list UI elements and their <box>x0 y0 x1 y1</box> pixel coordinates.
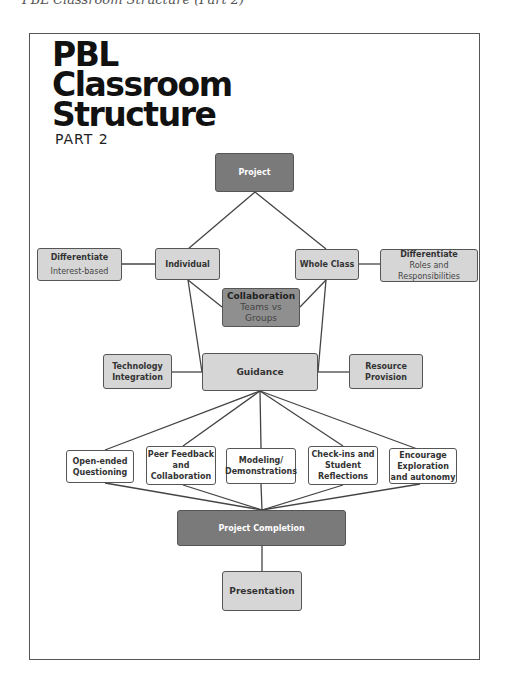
node-label: Peer Feedback <box>148 449 214 460</box>
node-peer-feedback: Peer Feedback and Collaboration <box>146 446 216 485</box>
node-individual: Individual <box>155 248 220 280</box>
node-modeling: Modeling/ Demonstrations <box>226 448 296 484</box>
node-differentiate-roles: Differentiate Roles and Responsibilities <box>380 249 478 282</box>
node-differentiate-interest: Differentiate Interest-based <box>37 248 122 281</box>
node-sub: Interest-based <box>51 266 109 277</box>
node-label: Questioning <box>73 467 128 478</box>
node-sub: Roles and <box>410 260 449 271</box>
node-presentation: Presentation <box>222 571 302 611</box>
node-label: Check-ins and <box>311 449 374 460</box>
node-collaboration: Collaboration Teams vs Groups <box>222 288 300 327</box>
node-sub: Groups <box>245 313 277 324</box>
node-sub: Responsibilities <box>398 271 460 282</box>
node-label: Resource <box>365 361 407 372</box>
node-label: Project <box>238 167 270 178</box>
node-title: Differentiate <box>51 252 109 263</box>
node-open-ended-questioning: Open-ended Questioning <box>66 450 134 483</box>
node-label: Exploration <box>397 461 449 472</box>
node-label: Encourage <box>399 450 447 461</box>
node-whole-class: Whole Class <box>295 249 359 280</box>
node-project-completion: Project Completion <box>177 510 346 546</box>
node-title: Collaboration <box>227 291 295 302</box>
node-label: Project Completion <box>218 523 304 534</box>
node-encourage-exploration: Encourage Exploration and autonomy <box>389 448 457 484</box>
node-label: Demonstrations <box>225 466 297 477</box>
node-project: Project <box>215 153 294 192</box>
node-resource-provision: Resource Provision <box>349 354 423 389</box>
node-label: Whole Class <box>300 259 355 270</box>
node-label: and <box>173 460 190 471</box>
node-title: Differentiate <box>400 249 458 260</box>
node-label: Provision <box>365 372 407 383</box>
node-label: Modeling/ <box>239 455 283 466</box>
node-label: Guidance <box>236 367 283 378</box>
node-label: Student <box>325 460 361 471</box>
node-label: Presentation <box>229 586 294 597</box>
node-label: Individual <box>165 259 210 270</box>
node-label: Technology <box>112 361 163 372</box>
node-label: Open-ended <box>73 456 128 467</box>
node-technology-integration: Technology Integration <box>103 354 172 389</box>
node-label: Collaboration <box>151 471 212 482</box>
node-label: Reflections <box>318 471 368 482</box>
node-sub: Teams vs <box>240 302 281 313</box>
node-label: Integration <box>112 372 163 383</box>
node-guidance: Guidance <box>202 353 318 391</box>
node-label: and autonomy <box>391 472 456 483</box>
node-check-ins: Check-ins and Student Reflections <box>308 446 378 485</box>
